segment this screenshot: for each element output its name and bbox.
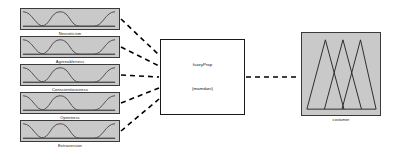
fis-diagram-canvas: Neuroticism Agreeableness [0, 0, 400, 156]
input-node-openness[interactable]: Openness [20, 92, 120, 114]
membership-plot-extraversion[interactable] [20, 120, 120, 142]
inference-system-type: (mamdani) [161, 86, 244, 91]
membership-plot-agreeableness[interactable] [20, 36, 120, 58]
wire-conscientiousness [121, 75, 159, 77]
input-node-extraversion[interactable]: Extraversion [20, 120, 120, 142]
input-label-extraversion: Extraversion [0, 143, 140, 149]
inference-system-title: fuzzyProp [161, 62, 244, 67]
input-node-agreeableness[interactable]: Agreeableness [20, 36, 120, 58]
wire-neuroticism [121, 19, 159, 55]
membership-plot-conscientiousness[interactable] [20, 64, 120, 86]
output-node-costumer[interactable]: costumer [301, 32, 381, 116]
output-label-costumer: costumer [281, 117, 400, 122]
membership-plot-openness[interactable] [20, 92, 120, 114]
inference-system-block[interactable]: fuzzyProp (mamdani) [160, 39, 245, 115]
membership-plot-costumer[interactable] [301, 32, 381, 116]
membership-plot-neuroticism[interactable] [20, 8, 120, 30]
input-node-conscientiousness[interactable]: Conscientiousness [20, 64, 120, 86]
input-node-neuroticism[interactable]: Neuroticism [20, 8, 120, 30]
